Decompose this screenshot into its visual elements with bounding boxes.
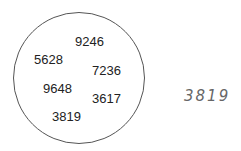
circle-number: 3617: [92, 92, 121, 105]
number-circle: [13, 12, 145, 144]
circle-number: 7236: [92, 64, 121, 77]
circle-number: 9648: [43, 82, 72, 95]
circle-number: 3819: [52, 110, 81, 123]
circle-number: 5628: [34, 53, 63, 66]
handwritten-answer: 3819: [184, 87, 230, 105]
circle-number: 9246: [75, 35, 104, 48]
